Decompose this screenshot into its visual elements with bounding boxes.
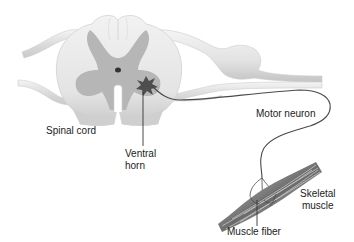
- label-skeletal-muscle-line1: Skeletal: [300, 188, 336, 200]
- label-muscle-fiber: Muscle fiber: [227, 226, 281, 238]
- label-spinal-cord: Spinal cord: [46, 125, 96, 137]
- motor-neuron-diagram: Spinal cord Ventral horn Motor neuron Sk…: [0, 0, 354, 242]
- spinal-cord-section: [56, 15, 181, 125]
- label-skeletal-muscle: Skeletal muscle: [300, 188, 336, 212]
- label-motor-neuron: Motor neuron: [256, 108, 315, 120]
- label-ventral-horn: Ventral horn: [125, 148, 156, 172]
- label-skeletal-muscle-line2: muscle: [300, 200, 336, 212]
- label-ventral-horn-line1: Ventral: [125, 148, 156, 160]
- label-ventral-horn-line2: horn: [125, 160, 156, 172]
